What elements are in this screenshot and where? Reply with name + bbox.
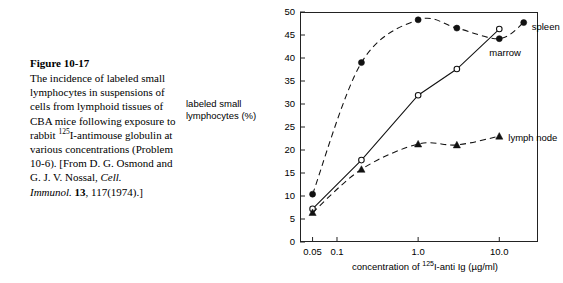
series-line-lymph-node [313,136,500,212]
y-tick-label: 15 [273,168,295,178]
y-tick-label: 50 [273,7,295,17]
data-point-spleen [310,191,316,197]
data-point-spleen [358,60,364,66]
chart: 051015202530354045500.050.11.010.0 splee… [0,0,563,283]
data-point-marrow [454,66,460,72]
data-point-lymph-node [358,166,365,173]
data-point-spleen [415,17,421,23]
y-tick-label: 40 [273,53,295,63]
y-tick-label: 45 [273,30,295,40]
data-point-spleen [454,25,460,31]
data-point-marrow [359,157,365,163]
x-tick-label: 1.0 [402,247,434,257]
y-tick-label: 35 [273,76,295,86]
y-tick-label: 10 [273,191,295,201]
series-line-spleen [313,18,524,194]
x-tick-label: 10.0 [483,247,515,257]
y-tick-label: 20 [273,145,295,155]
series-label-spleen: spleen [532,22,560,32]
x-axis-title: concentration of 125I-anti Ig (µg/ml) [330,261,520,272]
data-point-spleen [496,36,502,42]
series-label-marrow: marrow [489,48,521,58]
data-point-marrow [496,26,502,32]
series-label-lymph-node: lymph node [508,133,557,143]
x-axis-title-pre: concentration of [352,261,422,272]
data-point-marrow [415,92,421,98]
data-point-lymph-node [496,133,503,140]
y-tick-label: 25 [273,122,295,132]
x-axis-title-post: I-anti Ig (µg/ml) [434,261,498,272]
y-tick-label: 5 [273,214,295,224]
series-line-marrow [313,29,500,209]
x-tick-label: 0.1 [321,247,353,257]
x-axis-isotope-superscript: 125 [422,260,434,267]
y-tick-label: 0 [273,237,295,247]
data-point-spleen [521,20,527,26]
y-tick-label: 30 [273,99,295,109]
